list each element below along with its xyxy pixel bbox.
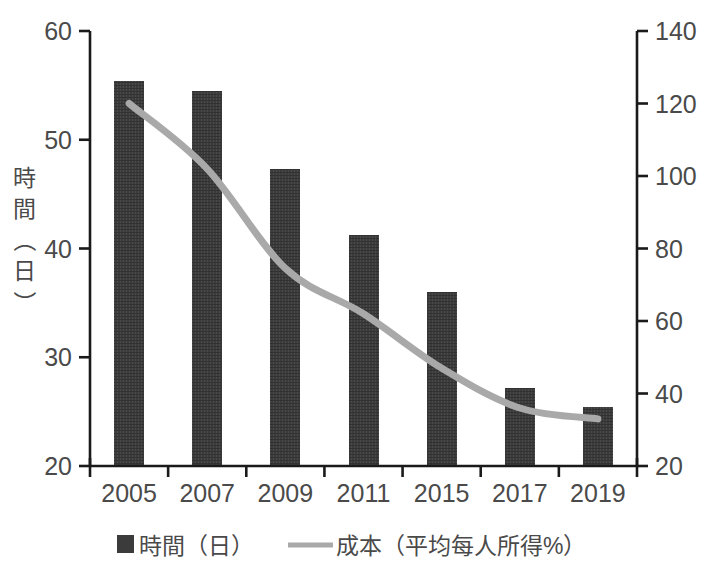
legend-label-time: 時間（日）	[139, 533, 254, 559]
x-axis-tick-labels: 2005200720092011201520172019	[101, 479, 625, 507]
x-tick-label-2011: 2011	[337, 479, 391, 507]
left-tick-label-40: 40	[44, 235, 72, 263]
bar-2007	[192, 91, 222, 466]
left-tick-label-20: 20	[44, 452, 72, 480]
x-tick-label-2009: 2009	[258, 479, 314, 507]
left-tick-label-60: 60	[44, 17, 72, 45]
legend-label-cost: 成本（平均每人所得%）	[336, 533, 586, 559]
y-axis-title-char: 日	[13, 258, 36, 284]
y-axis-title-char: 間	[13, 196, 36, 222]
right-tick-label-100: 100	[655, 162, 697, 190]
x-tick-label-2019: 2019	[570, 479, 626, 507]
chart-legend: 時間（日） 成本（平均每人所得%）	[117, 533, 586, 559]
bar-2011	[349, 235, 379, 466]
right-tick-label-60: 60	[655, 307, 683, 335]
dual-axis-bar-line-chart: 2030405060 20406080100120140 20052007200…	[0, 0, 706, 570]
left-tick-label-30: 30	[44, 343, 72, 371]
right-tick-label-40: 40	[655, 380, 683, 408]
y-axis-title-char: （	[11, 229, 37, 252]
legend-square-marker-icon	[117, 535, 134, 553]
bar-2015	[427, 292, 457, 466]
bar-2017	[505, 388, 535, 466]
y-axis-title-char: ）	[11, 291, 37, 314]
bar-2009	[270, 169, 300, 466]
x-tick-label-2017: 2017	[492, 479, 548, 507]
right-tick-label-120: 120	[655, 90, 697, 118]
bar-2005	[114, 81, 144, 466]
y-axis-title-char: 時	[13, 165, 36, 191]
right-tick-label-80: 80	[655, 235, 683, 263]
right-tick-label-140: 140	[655, 17, 697, 45]
left-tick-label-50: 50	[44, 126, 72, 154]
right-tick-label-20: 20	[655, 452, 683, 480]
x-tick-label-2015: 2015	[414, 479, 470, 507]
x-tick-label-2005: 2005	[101, 479, 157, 507]
y-axis-title: 時間（日）	[11, 165, 37, 314]
chart-container: 2030405060 20406080100120140 20052007200…	[0, 0, 706, 570]
x-tick-label-2007: 2007	[179, 479, 235, 507]
